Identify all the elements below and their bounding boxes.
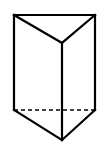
edge-bottom_back_left-bottom_front: [14, 110, 62, 140]
edge-top_back_right-top_front: [62, 15, 95, 43]
edge-top_back_left-top_front: [14, 15, 62, 43]
solid-edges: [14, 15, 95, 140]
edge-bottom_back_right-bottom_front: [62, 110, 95, 140]
triangular-prism-diagram: [0, 0, 112, 147]
